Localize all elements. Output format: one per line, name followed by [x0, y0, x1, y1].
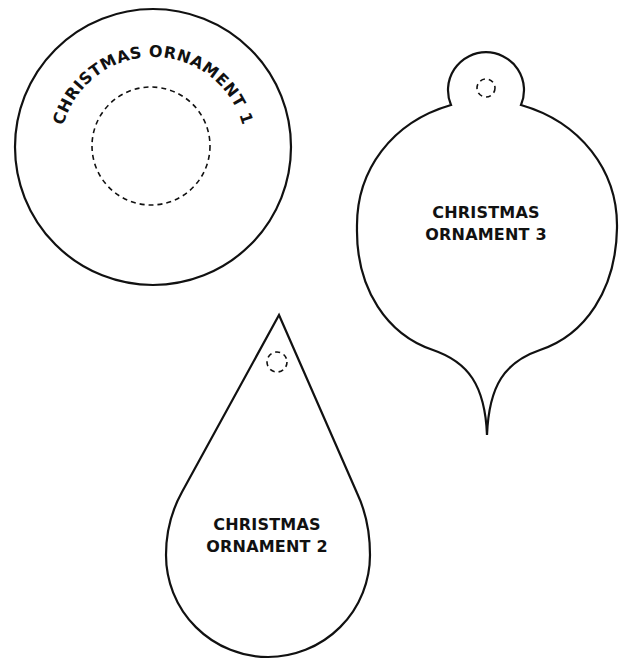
ornament-2-label-line2: ORNAMENT 2 [206, 537, 328, 556]
ornament-3: CHRISTMAS ORNAMENT 3 [357, 52, 617, 435]
ornament-3-label-line1: CHRISTMAS [432, 203, 539, 222]
ornament-2: CHRISTMAS ORNAMENT 2 [166, 315, 370, 657]
ornament-2-outline [166, 315, 370, 657]
ornament-2-label-line1: CHRISTMAS [213, 515, 320, 534]
ornament-templates-canvas: CHRISTMAS ORNAMENT 1 CHRISTMAS ORNAMENT … [0, 0, 631, 668]
ornament-3-label-line2: ORNAMENT 3 [425, 225, 547, 244]
ornament-1: CHRISTMAS ORNAMENT 1 [15, 9, 291, 285]
